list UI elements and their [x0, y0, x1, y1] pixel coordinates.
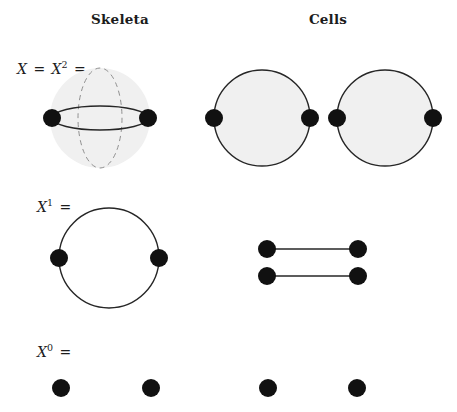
vertex-dot [349, 267, 367, 285]
vertex-dot [259, 379, 277, 397]
row-label-equals-2: = [72, 61, 88, 77]
vertex-dot [424, 109, 442, 127]
row-label-equals: = [57, 199, 73, 215]
row-label-x-base: X [52, 61, 62, 77]
row-label-x: X [17, 61, 27, 77]
vertex-dot [258, 267, 276, 285]
vertex-dot [258, 240, 276, 258]
vertex-dot [205, 109, 223, 127]
two-skeleton-group [43, 68, 157, 168]
vertex-dot [349, 240, 367, 258]
one-skeleton-group [50, 208, 168, 308]
dashed-meridian-ellipse [78, 68, 122, 168]
cw-complex-figure: Skeleta Cells X = X2 = X1 = X0 = [0, 0, 457, 412]
cell-disk [337, 70, 433, 166]
vertex-dot [142, 379, 160, 397]
skeleton-circle [59, 208, 159, 308]
vertex-dot [301, 109, 319, 127]
column-header-cells: Cells [268, 11, 388, 27]
row-label-two-skeleton: X = X2 = [17, 61, 88, 77]
row-label-equals: = [57, 344, 73, 360]
row-label-exponent-2: 2 [62, 59, 68, 70]
vertex-dot [50, 249, 68, 267]
vertex-dot [328, 109, 346, 127]
row-label-x-base: X [37, 199, 47, 215]
row-label-exponent-1: 1 [47, 197, 53, 208]
column-header-skeleta: Skeleta [60, 11, 180, 27]
zero-cells-group [259, 379, 366, 397]
row-label-exponent-0: 0 [47, 342, 53, 353]
row-label-equals-1: = [31, 61, 47, 77]
row-label-zero-skeleton: X0 = [37, 344, 73, 360]
two-cells-group [205, 70, 442, 166]
one-cells-group [258, 240, 367, 285]
cell-disk [214, 70, 310, 166]
row-label-one-skeleton: X1 = [37, 199, 73, 215]
sphere-body [50, 68, 150, 168]
lens-ellipse [52, 106, 148, 130]
row-label-x-base: X [37, 344, 47, 360]
vertex-dot [348, 379, 366, 397]
vertex-dot [52, 379, 70, 397]
vertex-dot [139, 109, 157, 127]
vertex-dot [43, 109, 61, 127]
zero-skeleton-group [52, 379, 160, 397]
vertex-dot [150, 249, 168, 267]
